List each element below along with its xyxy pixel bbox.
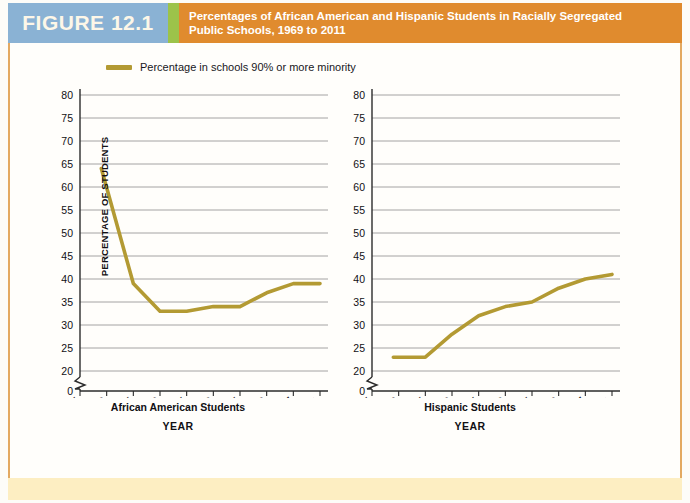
svg-text:2011: 2011 — [590, 394, 613, 398]
svg-text:35: 35 — [61, 296, 73, 308]
svg-text:60: 60 — [61, 181, 73, 193]
svg-text:1995: 1995 — [510, 394, 534, 398]
figure-title-line-2: Public Schools, 1969 to 2011 — [189, 23, 674, 37]
legend-swatch-icon — [106, 65, 132, 70]
figure-number-box: FIGURE 12.1 — [8, 3, 168, 43]
svg-text:75: 75 — [353, 112, 365, 124]
svg-text:20: 20 — [61, 365, 73, 377]
svg-text:40: 40 — [353, 273, 365, 285]
svg-text:1970: 1970 — [377, 394, 401, 398]
svg-text:2011: 2011 — [298, 394, 321, 398]
svg-text:2000: 2000 — [537, 394, 561, 398]
line-chart-hispanic: 0202530354045505560657075801965197019751… — [320, 83, 620, 398]
svg-text:1985: 1985 — [165, 394, 189, 398]
x-axis-title-right: YEAR — [320, 420, 620, 432]
panel-title-hispanic: Hispanic Students — [320, 401, 620, 413]
svg-text:60: 60 — [353, 181, 365, 193]
svg-text:70: 70 — [61, 135, 73, 147]
svg-text:25: 25 — [353, 342, 365, 354]
svg-text:1980: 1980 — [430, 394, 454, 398]
header-divider — [168, 3, 179, 43]
figure-title: Percentages of African American and Hisp… — [179, 3, 682, 43]
x-axis-title-left: YEAR — [28, 420, 328, 432]
chart-panel-hispanic: 0202530354045505560657075801965197019751… — [320, 83, 620, 453]
svg-text:65: 65 — [353, 158, 365, 170]
svg-text:80: 80 — [61, 89, 73, 101]
figure-container: FIGURE 12.1 Percentages of African Ameri… — [0, 0, 690, 503]
svg-text:65: 65 — [61, 158, 73, 170]
svg-text:45: 45 — [353, 250, 365, 262]
figure-body: Percentage in schools 90% or more minori… — [8, 43, 682, 455]
svg-text:80: 80 — [353, 89, 365, 101]
svg-text:20: 20 — [353, 365, 365, 377]
svg-text:1985: 1985 — [457, 394, 481, 398]
svg-text:1970: 1970 — [85, 394, 109, 398]
chart-panel-african-american: PERCENTAGE OF STUDENTS 02025303540455055… — [28, 83, 328, 453]
svg-text:1990: 1990 — [483, 394, 507, 398]
figure-title-line-1: Percentages of African American and Hisp… — [189, 9, 674, 23]
svg-text:1975: 1975 — [111, 394, 135, 398]
figure-bottom-gap — [8, 455, 682, 478]
chart-legend: Percentage in schools 90% or more minori… — [106, 61, 356, 73]
svg-text:30: 30 — [61, 319, 73, 331]
svg-text:40: 40 — [61, 273, 73, 285]
svg-text:30: 30 — [353, 319, 365, 331]
svg-text:45: 45 — [61, 250, 73, 262]
svg-text:2007: 2007 — [563, 394, 587, 398]
svg-text:50: 50 — [61, 227, 73, 239]
svg-text:1995: 1995 — [218, 394, 242, 398]
svg-text:2007: 2007 — [271, 394, 295, 398]
svg-text:25: 25 — [61, 342, 73, 354]
svg-text:55: 55 — [61, 204, 73, 216]
svg-text:50: 50 — [353, 227, 365, 239]
svg-text:1990: 1990 — [191, 394, 215, 398]
figure-header-bar: FIGURE 12.1 Percentages of African Ameri… — [8, 3, 682, 43]
svg-text:1975: 1975 — [403, 394, 427, 398]
svg-text:55: 55 — [353, 204, 365, 216]
y-axis-title: PERCENTAGE OF STUDENTS — [99, 127, 110, 287]
svg-text:1980: 1980 — [138, 394, 162, 398]
panel-title-african-american: African American Students — [28, 401, 328, 413]
figure-number-label: FIGURE 12.1 — [22, 11, 154, 35]
svg-text:70: 70 — [353, 135, 365, 147]
line-chart-african-american: 0202530354045505560657075801965197019751… — [28, 83, 328, 398]
svg-text:75: 75 — [61, 112, 73, 124]
svg-text:35: 35 — [353, 296, 365, 308]
svg-text:2000: 2000 — [245, 394, 269, 398]
page-bottom-band — [8, 478, 682, 500]
legend-label: Percentage in schools 90% or more minori… — [140, 61, 356, 73]
